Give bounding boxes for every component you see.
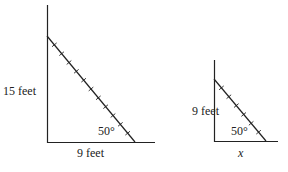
diagram-canvas [0,0,288,172]
small-height-label: 9 feet [192,104,219,119]
large-angle-label: 50° [98,124,115,139]
small-base-label: x [238,146,243,161]
large-height-label: 15 feet [3,84,36,99]
large-base-label: 9 feet [77,146,104,161]
small-angle-label: 50° [231,124,248,139]
